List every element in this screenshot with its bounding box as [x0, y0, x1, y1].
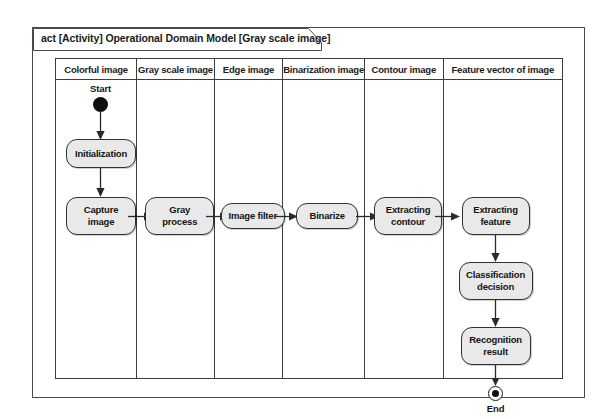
node-image-filter[interactable]: Image filter — [221, 203, 285, 229]
swimlane-header-edge-image: Edge image — [215, 59, 282, 80]
node-extracting-contour-line1: Extracting — [386, 204, 430, 216]
swimlane-gray-scale-image: Gray scale image Gray process — [137, 59, 215, 378]
swimlane-binarization-image: Binarization image Binarize — [283, 59, 365, 378]
swimlane-header-binarization-image: Binarization image — [283, 59, 364, 80]
node-extracting-feature[interactable]: Extracting feature — [462, 197, 530, 235]
connector-classification-decision-to-recognition-result — [488, 300, 504, 328]
connector-initialization-to-capture-image — [93, 168, 109, 198]
initial-node[interactable] — [93, 97, 108, 112]
swimlane-header-gray-scale-image: Gray scale image — [137, 59, 214, 80]
connector-extracting-feature-to-classification-decision — [488, 235, 504, 263]
node-recognition-result[interactable]: Recognition result — [461, 327, 531, 365]
swimlane-feature-vector-of-image: Feature vector of image Extracting featu… — [444, 59, 562, 378]
end-node-label: End — [456, 403, 536, 414]
swimlane-body-gray-scale-image: Gray process — [137, 80, 214, 378]
node-gray-process[interactable]: Gray process — [145, 197, 214, 235]
frame-title-label: act [Activity] Operational Domain Model … — [41, 32, 330, 44]
node-gray-process-line1: Gray — [169, 204, 190, 216]
frame-title-tab: act [Activity] Operational Domain Model … — [33, 28, 322, 51]
swimlane-header-colorful-image: Colorful image — [56, 59, 136, 80]
node-recognition-result-line1: Recognition — [469, 334, 522, 346]
swimlane-table: Colorful image Start Initialization — [55, 58, 563, 379]
swimlane-contour-image: Contour image Extracting contour — [365, 59, 443, 378]
node-recognition-result-line2: result — [483, 346, 508, 358]
node-classification-decision[interactable]: Classification decision — [459, 262, 533, 300]
node-extracting-contour-line2: contour — [391, 216, 425, 228]
node-extracting-feature-line2: feature — [480, 216, 510, 228]
node-capture-image[interactable]: Capture image — [66, 197, 136, 235]
swimlane-body-binarization-image: Binarize — [283, 80, 364, 378]
swimlane-colorful-image: Colorful image Start Initialization — [56, 59, 137, 378]
node-extracting-feature-line1: Extracting — [473, 204, 517, 216]
node-initialization[interactable]: Initialization — [66, 139, 136, 168]
node-capture-image-line2: image — [88, 216, 114, 228]
node-extracting-contour[interactable]: Extracting contour — [374, 197, 442, 235]
final-node[interactable] — [488, 386, 503, 401]
start-node-label: Start — [56, 83, 145, 94]
node-gray-process-line2: process — [162, 216, 197, 228]
swimlane-body-contour-image: Extracting contour — [365, 80, 442, 378]
swimlane-body-feature-vector-of-image: Extracting feature Classification decisi… — [444, 80, 562, 378]
swimlane-edge-image: Edge image Image filter — [215, 59, 283, 378]
connector-recognition-result-to-end — [488, 365, 504, 387]
node-classification-decision-line1: Classification — [466, 269, 525, 281]
connector-start-to-initialization — [93, 111, 109, 141]
swimlane-header-feature-vector-of-image: Feature vector of image — [444, 59, 562, 80]
node-capture-image-line1: Capture — [84, 204, 119, 216]
activity-diagram-frame: act [Activity] Operational Domain Model … — [32, 27, 585, 398]
swimlane-body-edge-image: Image filter — [215, 80, 282, 378]
node-binarize[interactable]: Binarize — [296, 203, 358, 229]
node-classification-decision-line2: decision — [477, 281, 514, 293]
swimlane-header-contour-image: Contour image — [365, 59, 442, 80]
swimlane-body-colorful-image: Start Initialization Capture — [56, 80, 136, 378]
